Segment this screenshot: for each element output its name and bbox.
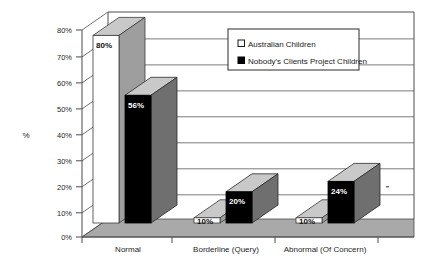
x-axis-ticks	[82, 237, 378, 243]
legend-label: Nobody's Clients Project Children	[248, 57, 367, 66]
y-tick-30: 30%	[57, 157, 72, 166]
x-label-abnormal: Abnormal (Of Concern)	[284, 245, 367, 254]
y-tick-40: 40%	[57, 131, 72, 140]
bar-value-label: 10%	[197, 217, 213, 226]
bar-value-label: 10%	[299, 217, 315, 226]
bar-value-label: 56%	[128, 101, 144, 110]
hollow-square-icon	[238, 40, 245, 47]
bar-front-face	[125, 95, 151, 223]
bar-normal-nobodys-clients-project-children[interactable]: 56%	[125, 77, 177, 223]
stray-mark	[386, 186, 389, 187]
legend-label: Australian Children	[248, 40, 316, 49]
x-label-borderline: Borderline (Query)	[193, 245, 259, 254]
filled-square-icon	[238, 57, 245, 64]
x-label-normal: Normal	[115, 245, 141, 254]
y-tick-80: 80%	[57, 26, 72, 35]
y-tick-20: 20%	[57, 183, 72, 192]
y-axis-title: %	[22, 131, 29, 140]
y-tick-10: 10%	[57, 209, 72, 218]
y-tick-labels: 80% 70% 60% 50% 40% 30% 20% 10% 0%	[57, 26, 72, 242]
bar-front-face	[93, 35, 119, 223]
x-axis-labels: Normal Borderline (Query) Abnormal (Of C…	[115, 245, 367, 254]
bar-value-label: 20%	[229, 197, 245, 206]
y-tick-50: 50%	[57, 105, 72, 114]
bar-value-label: 80%	[96, 41, 112, 50]
chart-canvas: 80% 70% 60% 50% 40% 30% 20% 10% 0% % 80%…	[0, 0, 432, 265]
y-tick-70: 70%	[57, 53, 72, 62]
bar-value-label: 24%	[331, 187, 347, 196]
legend-entry-nobodys-clients-project-children[interactable]: Nobody's Clients Project Children	[238, 57, 367, 66]
bar-chart: 80% 70% 60% 50% 40% 30% 20% 10% 0% % 80%…	[0, 0, 432, 265]
legend-entry-australian-children[interactable]: Australian Children	[238, 40, 316, 49]
y-tick-60: 60%	[57, 79, 72, 88]
y-tick-0: 0%	[61, 233, 72, 242]
chart-legend[interactable]: Australian Children Nobody's Clients Pro…	[228, 29, 367, 70]
bar-side-face	[151, 77, 177, 223]
